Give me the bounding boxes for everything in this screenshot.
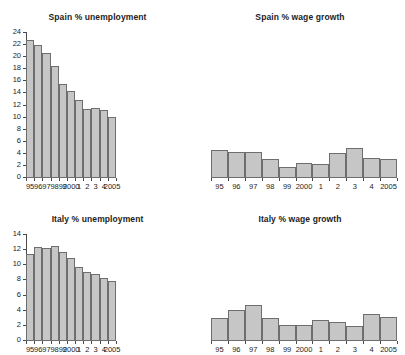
chart-panel-italy-wage-growth: Italy % wage growth959697989920001234200… [195, 212, 405, 355]
bar [108, 117, 116, 178]
x-tick-mark [245, 178, 246, 181]
bar [329, 153, 346, 178]
y-tick-label: 14 [5, 88, 21, 96]
chart-title-spain-unemployment: Spain % unemployment [0, 12, 195, 22]
x-tick-mark [397, 341, 398, 344]
bar [228, 310, 245, 341]
bar [26, 254, 34, 341]
bar [42, 53, 50, 178]
x-tick-mark [83, 178, 84, 181]
bar [26, 40, 34, 178]
x-tick-mark [279, 178, 280, 181]
x-tick-mark [91, 341, 92, 344]
x-tick-mark [51, 178, 52, 181]
y-tick-label: 16 [5, 76, 21, 84]
x-tick-mark [312, 178, 313, 181]
x-tick-mark [296, 341, 297, 344]
x-tick-mark [329, 341, 330, 344]
bar [279, 167, 296, 178]
bar [211, 318, 228, 341]
x-tick-label: 2005 [372, 346, 405, 354]
x-tick-mark [75, 341, 76, 344]
y-tick-label: 0 [5, 336, 21, 344]
bar [245, 305, 262, 341]
x-tick-mark [397, 178, 398, 181]
x-tick-mark [26, 341, 27, 344]
x-tick-mark [42, 341, 43, 344]
x-tick-mark [42, 178, 43, 181]
bar [262, 318, 279, 341]
x-tick-mark [91, 178, 92, 181]
x-tick-mark [279, 341, 280, 344]
y-tick-label: 24 [5, 28, 21, 36]
x-tick-mark [67, 178, 68, 181]
y-tick-mark [23, 249, 26, 250]
bar [34, 45, 42, 178]
x-tick-mark [262, 341, 263, 344]
bar [312, 164, 329, 178]
y-tick-label: 22 [5, 40, 21, 48]
x-tick-mark [329, 178, 330, 181]
bar [59, 84, 67, 178]
bar [51, 246, 59, 341]
bar [296, 163, 313, 179]
x-tick-mark [245, 341, 246, 344]
y-tick-label: 12 [5, 245, 21, 253]
figure-canvas: Spain % unemployment02468101214161820222… [0, 0, 405, 355]
x-tick-mark [116, 341, 117, 344]
y-tick-label: 0 [5, 173, 21, 181]
bar [108, 281, 116, 341]
bar [67, 258, 75, 341]
bar [346, 148, 363, 178]
x-tick-mark [116, 178, 117, 181]
y-tick-label: 12 [5, 101, 21, 109]
x-tick-mark [346, 178, 347, 181]
y-tick-label: 4 [5, 149, 21, 157]
x-tick-mark [51, 341, 52, 344]
bar [312, 320, 329, 341]
bar [100, 278, 108, 341]
x-tick-mark [262, 178, 263, 181]
bar [228, 152, 245, 178]
y-tick-label: 14 [5, 230, 21, 238]
bar [42, 248, 50, 341]
x-tick-mark [59, 341, 60, 344]
y-tick-label: 8 [5, 275, 21, 283]
chart-title-italy-wage-growth: Italy % wage growth [195, 214, 405, 224]
x-tick-mark [312, 341, 313, 344]
x-tick-mark [26, 178, 27, 181]
x-tick-mark [108, 341, 109, 344]
plot-area-italy-wage-growth: 9596979899200012342005 [211, 234, 397, 340]
x-tick-mark [363, 178, 364, 181]
x-tick-label: 2005 [372, 183, 405, 191]
bar [75, 100, 83, 178]
chart-panel-spain-wage-growth: Spain % wage growth959697989920001234200… [195, 10, 405, 190]
chart-title-italy-unemployment: Italy % unemployment [0, 214, 195, 224]
y-tick-label: 6 [5, 137, 21, 145]
bar [34, 247, 42, 341]
bar [91, 108, 99, 178]
x-tick-mark [228, 178, 229, 181]
bar [279, 325, 296, 341]
y-tick-mark [23, 234, 26, 235]
bar [296, 325, 313, 341]
bar [91, 274, 99, 341]
y-tick-mark [23, 32, 26, 33]
y-tick-label: 18 [5, 64, 21, 72]
y-tick-label: 4 [5, 306, 21, 314]
x-tick-mark [100, 178, 101, 181]
y-tick-label: 6 [5, 291, 21, 299]
y-tick-label: 20 [5, 52, 21, 60]
bar [83, 272, 91, 341]
x-tick-label: 2005 [104, 346, 120, 354]
bar [363, 314, 380, 341]
x-tick-mark [83, 341, 84, 344]
y-tick-label: 10 [5, 260, 21, 268]
x-tick-mark [67, 341, 68, 344]
x-tick-mark [34, 178, 35, 181]
bar [329, 322, 346, 341]
bar [67, 91, 75, 178]
x-tick-mark [363, 341, 364, 344]
x-tick-mark [211, 341, 212, 344]
bar [83, 109, 91, 178]
